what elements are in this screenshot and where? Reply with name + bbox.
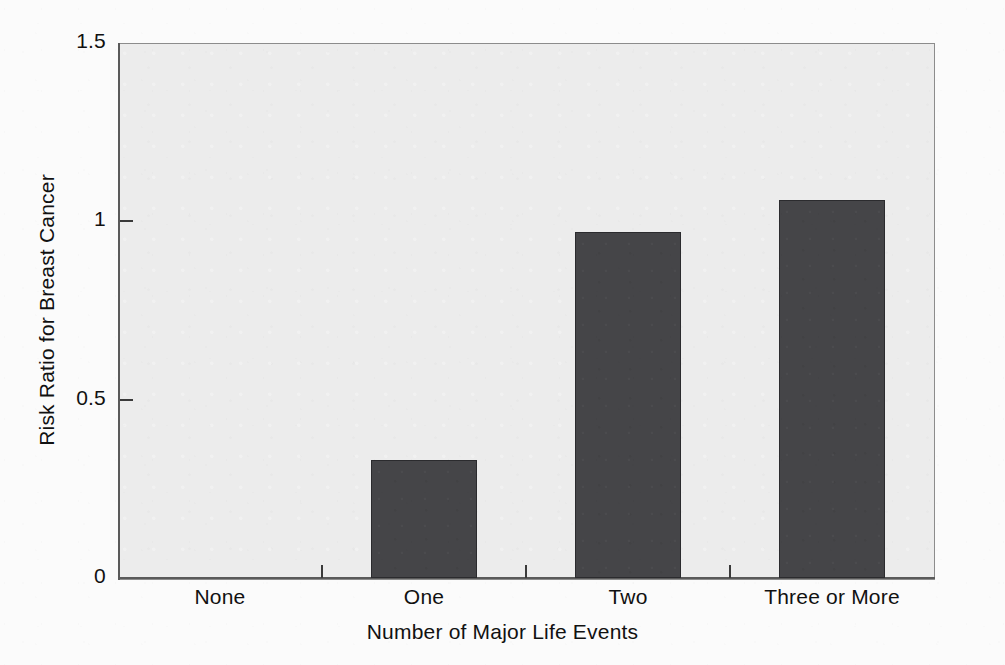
bar-two (575, 232, 681, 578)
x-tick-mark (729, 565, 731, 578)
x-tick-label-two: Two (608, 585, 647, 609)
bar-one (371, 460, 477, 578)
x-tick-label-three-or-more: Three or More (764, 585, 900, 609)
y-axis-line (118, 43, 120, 580)
y-tick-mark (120, 220, 133, 222)
y-tick-label: 1.5 (0, 29, 106, 53)
bar-three-or-more (779, 200, 885, 578)
y-tick-mark (120, 399, 133, 401)
y-axis-title: Risk Ratio for Breast Cancer (35, 174, 59, 446)
x-tick-label-one: One (404, 585, 444, 609)
x-tick-mark (321, 565, 323, 578)
y-tick-label: 0 (0, 564, 106, 588)
bar-chart-figure: 1.510.50 NoneOneTwoThree or More Risk Ra… (0, 0, 1005, 665)
x-axis-title: Number of Major Life Events (0, 620, 1005, 644)
x-tick-label-none: None (194, 585, 245, 609)
x-tick-mark (525, 565, 527, 578)
